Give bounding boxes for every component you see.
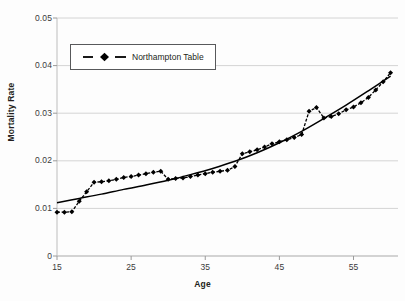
northampton-series-line [57, 73, 391, 212]
x-tick-label: 15 [43, 262, 71, 272]
y-tick-label: 0.01 [8, 203, 52, 213]
x-axis-title: Age [0, 279, 405, 289]
x-tick-label: 45 [265, 262, 293, 272]
y-tick-label: 0 [8, 251, 52, 261]
legend-entry-northampton-table: Northampton Table [71, 45, 215, 69]
legend-sample-icon [82, 51, 128, 63]
mortality-rate-chart: 00.010.020.030.040.05 1525354555 Mortali… [0, 0, 405, 301]
y-tick-label: 0.05 [8, 13, 52, 23]
x-tick-label: 55 [340, 262, 368, 272]
x-tick-label: 35 [191, 262, 219, 272]
y-axis-title: Mortality Rate [6, 62, 16, 162]
legend-label-northampton-table: Northampton Table [132, 52, 204, 62]
trend-line-series [57, 76, 391, 203]
chart-legend: Northampton Table [70, 44, 216, 70]
x-tick-label: 25 [117, 262, 145, 272]
